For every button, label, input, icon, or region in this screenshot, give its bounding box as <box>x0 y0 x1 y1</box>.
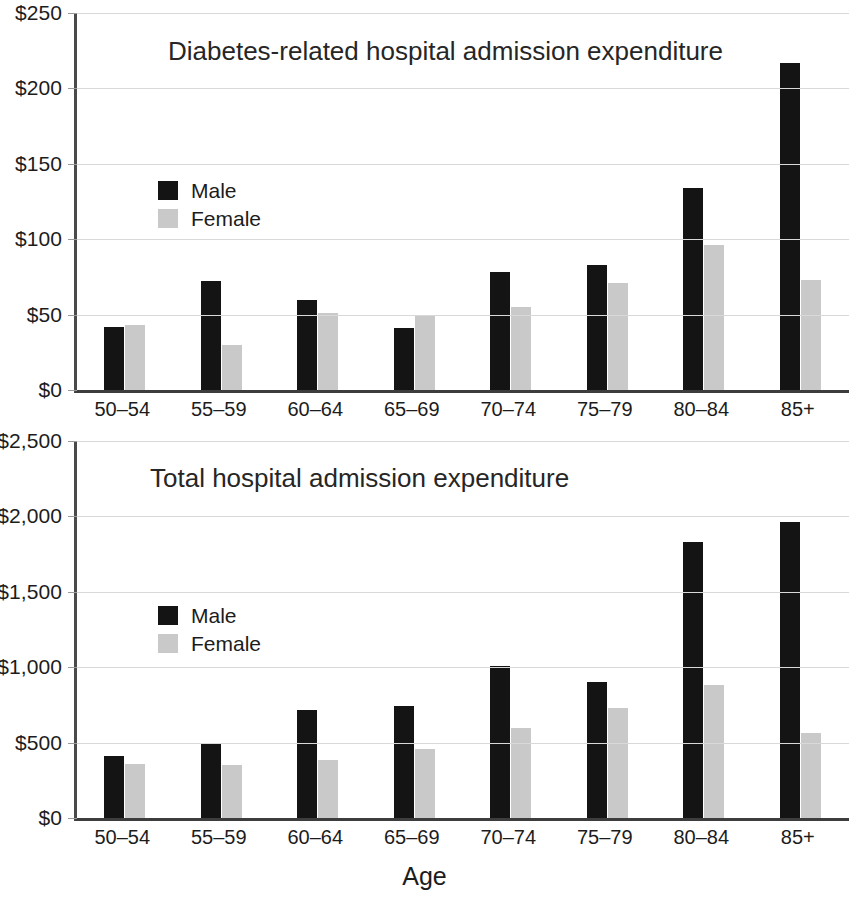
legend-swatch-male-icon <box>158 181 178 200</box>
bar-group <box>394 13 435 390</box>
bar-male <box>587 265 607 390</box>
bar-male <box>780 63 800 390</box>
x-axis-tick-label: 60–64 <box>287 398 343 421</box>
bar-female <box>511 307 531 390</box>
y-axis-tick <box>68 441 77 442</box>
y-axis-tick-label: $2,500 <box>0 429 62 453</box>
x-axis-tick-label: 80–84 <box>673 398 729 421</box>
bar-female <box>801 733 821 818</box>
bar-male <box>490 272 510 390</box>
y-axis-tick <box>68 88 77 89</box>
y-axis-tick-label: $500 <box>15 731 62 755</box>
gridline <box>77 13 849 14</box>
y-axis-tick <box>68 516 77 517</box>
chart-panel-diabetes: Diabetes-related hospital admission expe… <box>0 0 849 430</box>
x-axis-tick-label: 70–74 <box>480 398 536 421</box>
bar-group <box>780 441 821 818</box>
legend: Male Female <box>158 601 261 657</box>
bar-male <box>104 756 124 818</box>
y-axis-tick-label: $50 <box>27 303 62 327</box>
bar-male <box>201 281 221 390</box>
legend-swatch-female-icon <box>158 209 178 228</box>
bar-group <box>394 441 435 818</box>
bar-group <box>683 13 724 390</box>
gridline <box>77 667 849 668</box>
bar-female <box>511 728 531 818</box>
bar-group <box>297 441 338 818</box>
gridline <box>77 315 849 316</box>
bar-male <box>394 328 414 390</box>
bar-female <box>704 685 724 818</box>
x-axis-title: Age <box>0 862 849 891</box>
legend-item-female: Female <box>158 629 261 657</box>
gridline <box>77 441 849 442</box>
y-axis-tick <box>68 13 77 14</box>
bar-male <box>587 682 607 818</box>
x-axis-tick-label: 60–64 <box>287 826 343 849</box>
x-axis-tick-label: 70–74 <box>480 826 536 849</box>
y-axis-tick <box>68 239 77 240</box>
bar-group <box>490 13 531 390</box>
legend-label-male: Male <box>191 180 237 201</box>
x-axis-labels: 50–5455–5960–6465–6970–7475–7980–8485+ <box>74 826 846 856</box>
gridline <box>77 592 849 593</box>
gridline <box>77 743 849 744</box>
bar-group <box>587 13 628 390</box>
bar-group <box>683 441 724 818</box>
x-axis-tick-label: 50–54 <box>94 398 150 421</box>
y-axis-tick <box>68 592 77 593</box>
x-axis-tick-label: 55–59 <box>191 826 247 849</box>
legend-label-male: Male <box>191 605 237 626</box>
bar-male <box>297 710 317 818</box>
y-axis-tick <box>68 390 77 391</box>
x-axis-labels: 50–5455–5960–6465–6970–7475–7980–8485+ <box>74 398 846 428</box>
y-axis-labels: $0$500$1,000$1,500$2,000$2,500 <box>0 430 72 899</box>
bar-female <box>415 749 435 818</box>
bar-female <box>608 708 628 818</box>
legend-label-female: Female <box>191 208 261 229</box>
bar-female <box>318 760 338 818</box>
y-axis-tick-label: $150 <box>15 152 62 176</box>
x-axis-tick-label: 55–59 <box>191 398 247 421</box>
y-axis-tick-label: $100 <box>15 227 62 251</box>
y-axis-tick-label: $0 <box>38 378 62 402</box>
y-axis-tick <box>68 743 77 744</box>
y-axis-labels: $0$50$100$150$200$250 <box>0 0 72 430</box>
y-axis-tick-label: $1,000 <box>0 655 62 679</box>
x-axis-tick-label: 75–79 <box>577 398 633 421</box>
x-axis-tick-label: 85+ <box>781 826 815 849</box>
y-axis-tick-label: $2,000 <box>0 504 62 528</box>
bar-female <box>608 283 628 390</box>
legend: Male Female <box>158 176 261 232</box>
y-axis-tick-label: $0 <box>38 806 62 830</box>
gridline <box>77 239 849 240</box>
legend-label-female: Female <box>191 633 261 654</box>
figure-container: Diabetes-related hospital admission expe… <box>0 0 849 899</box>
gridline <box>77 164 849 165</box>
y-axis-tick <box>68 667 77 668</box>
y-axis-tick <box>68 315 77 316</box>
legend-item-male: Male <box>158 176 261 204</box>
bar-group <box>780 13 821 390</box>
bar-male <box>683 188 703 390</box>
x-axis-tick-label: 80–84 <box>673 826 729 849</box>
bar-female <box>222 345 242 390</box>
y-axis-tick-label: $250 <box>15 1 62 25</box>
bar-group <box>587 441 628 818</box>
legend-swatch-female-icon <box>158 634 178 653</box>
y-axis-tick-label: $200 <box>15 76 62 100</box>
legend-item-female: Female <box>158 204 261 232</box>
y-axis-tick <box>68 164 77 165</box>
bar-female <box>318 313 338 390</box>
bar-male <box>683 542 703 818</box>
chart-panel-total: Total hospital admission expenditure $0$… <box>0 430 849 899</box>
bar-female <box>125 325 145 390</box>
x-axis-tick-label: 75–79 <box>577 826 633 849</box>
bar-male <box>394 706 414 818</box>
x-axis-tick-label: 50–54 <box>94 826 150 849</box>
y-axis-tick <box>68 818 77 819</box>
bar-female <box>125 764 145 818</box>
legend-swatch-male-icon <box>158 606 178 625</box>
x-axis-tick-label: 65–69 <box>384 826 440 849</box>
legend-item-male: Male <box>158 601 261 629</box>
